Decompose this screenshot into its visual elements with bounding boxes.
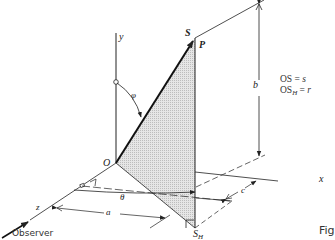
top-line [195,0,264,38]
origin-label: O [103,158,110,168]
equation-osh: OSH = r [280,85,311,97]
equations: OS = s OSH = r [280,74,311,97]
x-axis-label: x [319,174,323,184]
z-axis-label: z [36,203,40,212]
geometry-diagram [0,0,335,240]
figure-caption: Fig [319,225,335,236]
y-axis-label: y [119,32,123,42]
shaded-triangle [116,38,195,228]
theta-label: θ [120,193,124,202]
point-sh-label: SH [193,229,203,239]
point-s-label: S [185,28,191,38]
observer-label: Observer [12,229,53,238]
a-label: a [106,208,111,217]
phi-arc [117,83,141,117]
point-p-label: P [199,40,205,50]
phi-label: φ [131,91,136,100]
c-label: c [241,186,245,195]
b-label: b [253,80,258,90]
equation-os: OS = s [280,74,311,85]
z-marker [80,183,85,187]
sh-ground-line [195,201,232,228]
x-axis [195,172,278,181]
a-dimension [57,208,104,213]
